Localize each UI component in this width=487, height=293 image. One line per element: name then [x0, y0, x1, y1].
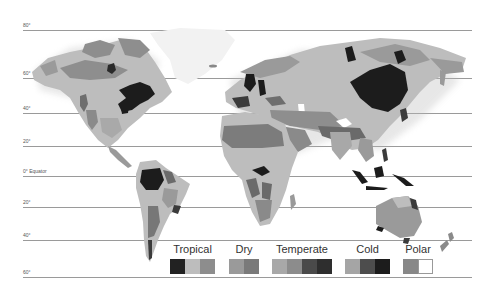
legend-swatch [287, 259, 302, 274]
legend-swatch [170, 259, 185, 274]
climate-map: 80° 60° 40° 20° 0° Equator 20° 40° 60° T… [0, 0, 487, 293]
latitude-label: 20° [23, 138, 31, 144]
legend-swatch [185, 259, 200, 274]
legend-group-dry: Dry [229, 243, 259, 274]
legend-swatch [272, 259, 287, 274]
legend-swatch [229, 259, 244, 274]
legend-group-cold: Cold [345, 243, 390, 274]
legend-swatch [418, 259, 433, 274]
legend-label: Polar [403, 243, 433, 255]
legend-swatch [302, 259, 317, 274]
legend-label: Temperate [272, 243, 332, 255]
latitude-label: 80° [23, 22, 31, 28]
legend-swatch [317, 259, 332, 274]
latitude-label: 40° [23, 105, 31, 111]
legend-swatch [200, 259, 215, 274]
legend-label: Dry [229, 243, 259, 255]
legend-group-tropical: Tropical [170, 243, 215, 274]
equator-label: 0° Equator [23, 168, 47, 174]
legend-label: Cold [345, 243, 390, 255]
latitude-label: 20° [23, 199, 31, 205]
legend-group-temperate: Temperate [272, 243, 332, 274]
legend-swatch [360, 259, 375, 274]
legend-swatch [244, 259, 259, 274]
latitude-label: 60° [23, 70, 31, 76]
legend-swatch [375, 259, 390, 274]
legend-label: Tropical [170, 243, 215, 255]
new-zealand [440, 232, 454, 252]
latitude-label: 40° [23, 232, 31, 238]
australia [376, 196, 422, 244]
latitude-label: 60° [23, 269, 31, 275]
legend-swatch [345, 259, 360, 274]
legend-group-polar: Polar [403, 243, 433, 274]
north-america [32, 38, 172, 168]
legend-swatch [403, 259, 418, 274]
africa [220, 112, 298, 226]
